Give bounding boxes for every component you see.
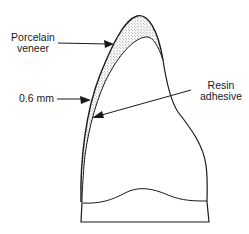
tooth-root-base [81,202,209,222]
porcelain-veneer-label-line2: veneer [6,43,60,54]
resin-adhesive-label-line2: adhesive [195,91,247,102]
porcelain-veneer-label: Porcelain veneer [6,32,60,54]
resin-adhesive-label: Resin adhesive [195,80,247,102]
veneer-inner-boundary [82,37,163,202]
resin-adhesive-leader [92,90,191,118]
gingival-margin-line [83,189,207,204]
thickness-label-text: 0.6 mm [19,92,54,104]
thickness-label: 0.6 mm [19,93,54,104]
porcelain-veneer-leader [58,40,114,48]
thickness-leader [57,96,91,104]
